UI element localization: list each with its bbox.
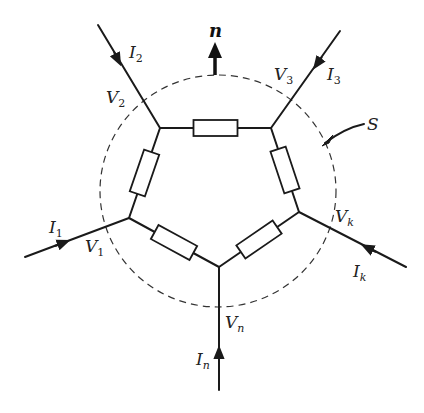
- label-i2: I2: [128, 42, 143, 65]
- label-v3: V3: [274, 64, 293, 87]
- label-ik: Ik: [352, 261, 367, 284]
- arrow-i3-icon: [317, 57, 322, 64]
- resistor-bottom-left: [151, 225, 197, 260]
- label-i1: I1: [48, 217, 63, 240]
- external-wires: [25, 25, 406, 390]
- normal-label: n: [209, 20, 222, 41]
- internal-network: [129, 128, 299, 267]
- circuit-diagram: n S V2: [0, 0, 424, 413]
- normal-vector-n: n: [208, 20, 222, 75]
- resistor-top: [194, 120, 238, 136]
- resistor-left: [130, 150, 159, 197]
- resistor-bottom-right: [236, 220, 281, 258]
- label-v1: V1: [85, 236, 104, 259]
- surface-label: S: [367, 114, 379, 134]
- label-vn: Vn: [225, 312, 244, 335]
- current-labels: I2 I3 I1 Ik In: [48, 42, 367, 372]
- label-i3: I3: [326, 64, 341, 87]
- wire-i1: [25, 218, 129, 257]
- wire-i2: [98, 25, 160, 128]
- label-in: In: [195, 349, 210, 372]
- resistor-right: [270, 147, 299, 194]
- arrow-up-icon: [208, 42, 222, 58]
- label-vk: Vk: [335, 206, 354, 229]
- label-v2: V2: [106, 87, 125, 110]
- arrow-icon: [322, 135, 333, 146]
- surface-pointer: S: [322, 114, 379, 146]
